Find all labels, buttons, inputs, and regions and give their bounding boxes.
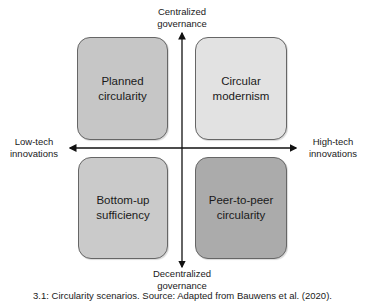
bottom-axis-label-line1: Decentralized [132,268,232,280]
right-axis-label: High-tech innovations [301,136,365,160]
figure-caption: 3.1: Circularity scenarios. Source: Adap… [0,290,365,302]
right-axis-label-line2: innovations [301,148,365,160]
quadrant-peer-to-peer-circularity: Peer-to-peer circularity [195,157,287,259]
quadrant-planned-circularity: Planned circularity [77,37,168,140]
left-axis-label: Low-tech innovations [4,136,64,160]
quadrant-label-line1: Planned [98,74,147,89]
left-axis-label-line1: Low-tech [4,136,64,148]
quadrant-label-line2: sufficiency [96,208,149,223]
right-axis-label-line1: High-tech [301,136,365,148]
bottom-axis-label: Decentralized governance [132,268,232,292]
quadrant-label-line1: Circular [213,74,270,89]
top-axis-label-line2: governance [132,18,232,30]
quadrant-bottom-up-sufficiency: Bottom-up sufficiency [78,157,168,259]
top-axis-label: Centralized governance [132,6,232,30]
quadrant-label-line1: Bottom-up [96,193,149,208]
top-axis-label-line1: Centralized [132,6,232,18]
left-axis-label-line2: innovations [4,148,64,160]
quadrant-label-line2: circularity [209,208,274,223]
quadrant-circular-modernism: Circular modernism [195,37,287,140]
quadrant-label-line2: modernism [213,89,270,104]
quadrant-label-line2: circularity [98,89,147,104]
quadrant-label-line1: Peer-to-peer [209,193,274,208]
